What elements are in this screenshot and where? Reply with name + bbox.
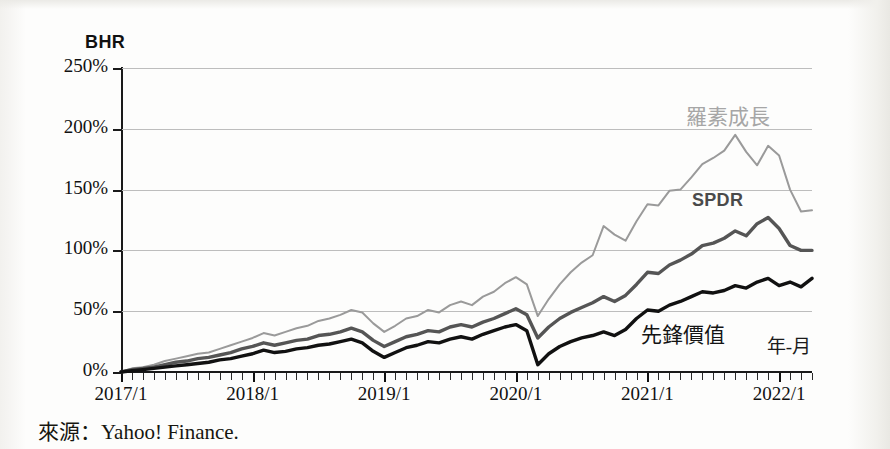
page-background: BHR 0%50%100%150%200%250% 2017/12018/120… — [0, 0, 890, 449]
source-caption: 來源：Yahoo! Finance. — [38, 415, 239, 445]
series-label-vanguard-value: 先鋒價值 — [641, 318, 725, 348]
x-axis-title: 年-月 — [767, 331, 811, 358]
series-lines — [0, 0, 890, 449]
series-label-russell-growth: 羅素成長 — [686, 100, 770, 130]
line-chart: BHR 0%50%100%150%200%250% 2017/12018/120… — [0, 0, 890, 449]
series-label-spdr: SPDR — [692, 190, 743, 211]
series-line-SPDR — [121, 218, 812, 372]
